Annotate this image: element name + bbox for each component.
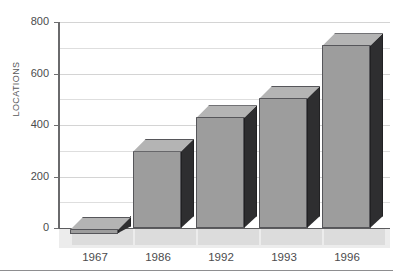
bar-front-face-1996: [322, 45, 370, 228]
y-tick-label-200: 200: [15, 171, 49, 182]
bar-side-face-1992: [244, 105, 257, 228]
y-tick-label-0: 0: [15, 222, 49, 233]
bar-side-face-1993: [307, 86, 320, 228]
y-tick-label-800: 800: [15, 16, 49, 27]
bar-shadow-1986: [135, 229, 196, 245]
y-tick-mark-400: [54, 125, 59, 126]
y-tick-label-400: 400: [15, 119, 49, 130]
bar-front-face-1992: [196, 117, 244, 228]
gridline-800: [60, 22, 390, 23]
x-tick-label-1986: 1986: [127, 252, 189, 264]
y-tick-mark-800: [54, 22, 59, 23]
x-tick-label-1967: 1967: [64, 252, 126, 264]
bar-shadow-1996: [324, 229, 385, 245]
bar-front-face-1993: [259, 98, 307, 228]
bar-side-face-1986: [181, 139, 194, 228]
bar-side-face-1996: [370, 33, 383, 228]
x-tick-label-1993: 1993: [253, 252, 315, 264]
y-tick-label-600: 600: [15, 68, 49, 79]
y-tick-mark-200: [54, 177, 59, 178]
bar-shadow-1992: [198, 229, 259, 245]
y-tick-mark-600: [54, 74, 59, 75]
footer-divider: [0, 270, 393, 271]
bar-front-face-1986: [133, 151, 181, 228]
x-tick-label-1992: 1992: [190, 252, 252, 264]
bar-shadow-1993: [261, 229, 322, 245]
x-tick-label-1996: 1996: [316, 252, 378, 264]
bar-chart-figure: LOCATIONS 020040060080019671986199219931…: [0, 0, 393, 278]
